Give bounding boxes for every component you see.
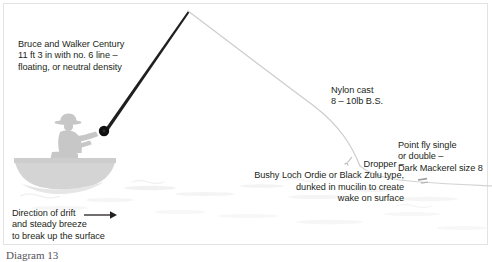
nylon-cast-label: Nylon cast 8 – 10lb B.S. — [331, 85, 383, 108]
reel-icon — [99, 126, 109, 136]
dropper-label: Dropper – Bushy Loch Ordie or Black Zulu… — [224, 159, 404, 205]
angler-silhouette — [50, 113, 98, 160]
drift-label: Direction of drift and steady breeze to … — [12, 208, 105, 242]
rod-label: Bruce and Walker Century 11 ft 3 in with… — [18, 39, 124, 73]
boat-hull — [14, 158, 116, 194]
figure-caption: Diagram 13 — [6, 249, 58, 261]
figure-root: Bruce and Walker Century 11 ft 3 in with… — [0, 0, 492, 262]
point-fly-label: Point fly single or double – Dark Macker… — [398, 140, 483, 174]
